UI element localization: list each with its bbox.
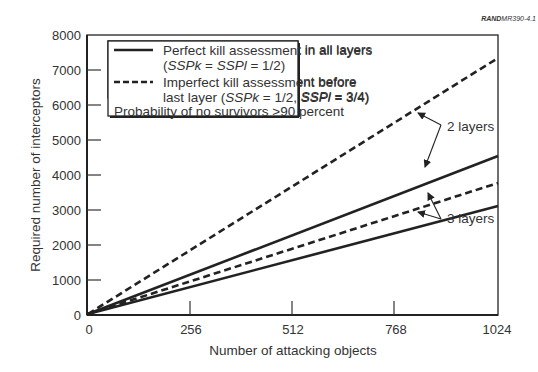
legend-solid-line2: (SSPk = SSPl = 1/2) xyxy=(163,58,285,73)
y-tick-3000: 3000 xyxy=(52,203,81,218)
line-3-layers-imperfect xyxy=(88,183,498,314)
x-tick-256: 256 xyxy=(180,322,202,337)
x-tick-labels: 0 256 512 768 1024 xyxy=(85,322,511,337)
x-axis-title: Number of attacking objects xyxy=(209,343,377,358)
x-tick-768: 768 xyxy=(385,322,407,337)
y-tick-6000: 6000 xyxy=(52,98,81,113)
y-tick-2000: 2000 xyxy=(52,238,81,253)
x-tick-1024: 1024 xyxy=(483,322,512,337)
arrow-icon xyxy=(418,113,441,125)
legend-dashed-line2: last layer (SSPk = 1/2, SSPl = 3/4) xyxy=(163,90,369,105)
annotation-2-layers: 2 layers xyxy=(418,113,495,167)
chart-figure: RANDMR390-4.1 0 1000 2000 3000 4000 5000… xyxy=(0,0,538,372)
y-axis-title: Required number of interceptors xyxy=(28,78,43,272)
y-tick-4000: 4000 xyxy=(52,168,81,183)
legend-dashed-line1: Imperfect kill assessment before xyxy=(163,75,357,90)
legend-solid-line1: Perfect kill assessment in all layers xyxy=(163,43,373,58)
figure-id: RANDMR390-4.1 xyxy=(481,15,536,22)
y-tick-0: 0 xyxy=(74,308,81,323)
line-2-layers-perfect xyxy=(88,156,498,314)
line-3-layers-perfect xyxy=(88,206,498,314)
y-tick-8000: 8000 xyxy=(52,28,81,43)
x-ticks xyxy=(190,301,394,315)
arrow-icon xyxy=(425,125,441,167)
label-2-layers: 2 layers xyxy=(447,119,495,134)
y-ticks xyxy=(87,70,101,280)
y-tick-5000: 5000 xyxy=(52,133,81,148)
label-3-layers: 3 layers xyxy=(447,211,495,226)
y-tick-7000: 7000 xyxy=(52,63,81,78)
legend-note: Probability of no survivors >90 percent xyxy=(114,104,344,119)
y-tick-labels: 0 1000 2000 3000 4000 5000 6000 7000 800… xyxy=(52,28,81,323)
x-tick-512: 512 xyxy=(282,322,304,337)
x-tick-0: 0 xyxy=(85,322,92,337)
y-tick-1000: 1000 xyxy=(52,273,81,288)
